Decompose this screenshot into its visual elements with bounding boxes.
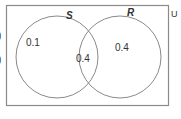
venn-diagram: S R 0.1 0.4 0.4 U ) ) (0, 0, 181, 119)
margin-mark-1: ) (0, 30, 1, 41)
intersection-value: 0.4 (76, 53, 90, 64)
set-r-circle (79, 16, 161, 98)
set-r-label: R (127, 7, 135, 18)
universe-label: U (171, 9, 178, 19)
set-s-label: S (66, 10, 73, 21)
s-only-value: 0.1 (26, 37, 40, 48)
margin-mark-2: ) (0, 54, 1, 65)
r-only-value: 0.4 (115, 42, 129, 53)
